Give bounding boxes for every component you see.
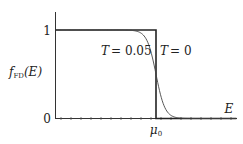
- annotation-t005: T= 0.05: [101, 44, 152, 58]
- annotation-t005-value: = 0.05: [111, 44, 152, 58]
- x-tick-label-mu0: μ0: [150, 123, 162, 138]
- fermi-dirac-chart: 1 0 fFD(E) E μ0 T= 0.05 T= 0: [0, 0, 243, 144]
- y-tick-label-1: 1: [43, 24, 51, 38]
- x-axis-label: E: [224, 102, 234, 116]
- y-tick-label-0: 0: [43, 112, 51, 126]
- annotation-t0: T= 0: [160, 44, 192, 58]
- annotation-t0-T: T: [160, 44, 169, 58]
- annotation-t0-value: = 0: [170, 44, 192, 58]
- y-axis-label-subscript: FD: [13, 72, 24, 80]
- mu-symbol: μ: [150, 123, 158, 137]
- y-axis-label-arg: (E): [24, 65, 42, 79]
- mu-subscript: 0: [158, 130, 162, 138]
- annotation-t005-T: T: [101, 44, 110, 58]
- y-axis-label: fFD(E): [8, 65, 42, 80]
